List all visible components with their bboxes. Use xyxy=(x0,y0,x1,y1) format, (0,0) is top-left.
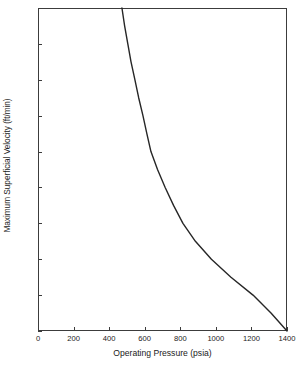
x-tick-mark xyxy=(109,327,110,331)
series-line-max-superficial-velocity xyxy=(122,8,287,331)
y-tick-mark xyxy=(38,187,42,188)
y-tick-mark xyxy=(38,223,42,224)
y-tick-mark xyxy=(38,44,42,45)
x-tick-mark xyxy=(145,327,146,331)
y-tick-mark xyxy=(38,152,42,153)
y-tick-mark xyxy=(38,116,42,117)
x-tick-mark xyxy=(251,327,252,331)
x-tick-mark xyxy=(216,327,217,331)
chart-figure: Maximum Superficial Velocity (ft/min) 26… xyxy=(0,0,297,367)
y-tick-mark xyxy=(38,331,42,332)
y-tick-mark xyxy=(38,295,42,296)
data-curve-layer xyxy=(38,8,287,331)
y-tick-mark xyxy=(38,8,42,9)
x-tick-mark xyxy=(38,327,39,331)
x-tick-mark xyxy=(180,327,181,331)
y-axis-title: Maximum Superficial Velocity (ft/min) xyxy=(0,0,14,331)
y-tick-mark xyxy=(38,80,42,81)
x-tick-label: 1400 xyxy=(264,334,297,343)
x-tick-mark xyxy=(74,327,75,331)
x-tick-mark xyxy=(287,327,288,331)
x-axis-title: Operating Pressure (psia) xyxy=(38,348,287,359)
y-tick-mark xyxy=(38,259,42,260)
